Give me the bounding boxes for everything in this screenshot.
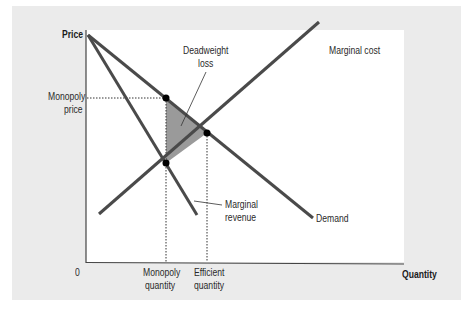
deadweight-loss-label-line1: Deadweight (183, 45, 228, 57)
efficient-point (204, 130, 211, 137)
diagram-stage: Price Monopoly price Deadweight loss Mar… (0, 0, 461, 309)
marginal-revenue-leader-line (194, 201, 222, 205)
marginal-cost-label: Marginal cost (329, 45, 380, 57)
deadweight-leader-line (181, 72, 206, 126)
monopoly-diagram (0, 0, 461, 309)
deadweight-loss-label-line2: loss (198, 58, 213, 70)
marginal-revenue-label-line1: Marginal (225, 199, 258, 211)
x-axis-label: Quantity (402, 269, 437, 281)
monopoly-quantity-label-line1: Monopoly (143, 267, 180, 279)
monopoly-price-label-line2: price (64, 104, 83, 116)
efficient-quantity-label-line1: Efficient (194, 267, 224, 279)
monopoly-price-label-line1: Monopoly (48, 91, 85, 103)
origin-label: 0 (75, 267, 80, 279)
efficient-quantity-label-line2: quantity (194, 280, 224, 292)
demand-label: Demand (316, 213, 349, 225)
marginal-revenue-label-line2: revenue (225, 212, 256, 224)
deadweight-loss-area (166, 98, 207, 163)
monopoly-point (163, 95, 170, 102)
x-axis (86, 263, 404, 265)
y-axis-label: Price (62, 29, 83, 41)
monopoly-quantity-label-line2: quantity (145, 280, 175, 292)
mr-mc-intersection-point (163, 160, 170, 167)
